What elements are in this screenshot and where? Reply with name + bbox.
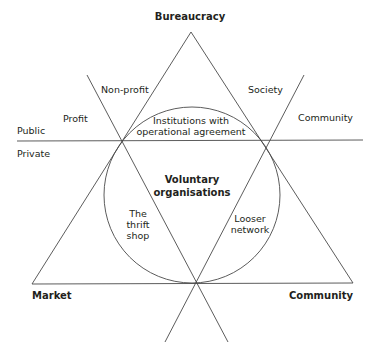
region-left-line3: shop: [127, 230, 150, 241]
label-profit: Profit: [63, 113, 88, 124]
label-society: Society: [248, 84, 283, 95]
region-right-line2: network: [231, 224, 270, 235]
label-public: Public: [17, 125, 45, 136]
vertex-label-market: Market: [32, 290, 72, 301]
main-triangle: [32, 32, 353, 284]
label-non-profit: Non-profit: [101, 84, 149, 95]
region-left-line2: thrift: [126, 219, 149, 230]
label-community-axis: Community: [298, 112, 353, 123]
region-top-line1: Institutions with: [153, 115, 229, 126]
region-left-line1: The: [128, 208, 147, 219]
public-private-divider: [17, 140, 363, 141]
center-title-line2: organisations: [153, 187, 230, 198]
vertex-label-bureaucracy: Bureaucracy: [155, 11, 226, 22]
region-right-line1: Looser: [234, 213, 266, 224]
region-top-line2: operational agreement: [136, 126, 245, 137]
label-private: Private: [17, 148, 50, 159]
welfare-triangle-diagram: Bureaucracy Market Community Public Priv…: [0, 0, 379, 356]
center-title-line1: Voluntary: [165, 174, 220, 185]
vertex-label-community: Community: [289, 290, 353, 301]
